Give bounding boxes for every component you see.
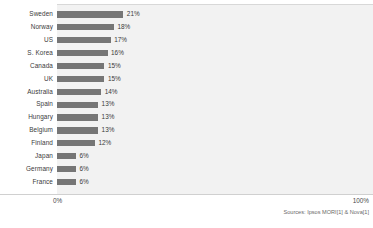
category-label: US — [0, 37, 57, 43]
bar — [57, 11, 123, 17]
bar-row: US17% — [0, 34, 373, 47]
value-label: 13% — [98, 114, 114, 120]
bar-rows: Sweden21%Norway18%US17%S. Korea16%Canada… — [0, 8, 373, 194]
bar-track: 17% — [57, 34, 373, 47]
bar-track: 16% — [57, 47, 373, 60]
bar-row: Germany6% — [0, 163, 373, 176]
value-label: 16% — [108, 50, 124, 56]
x-axis-tick-min: 0% — [53, 197, 62, 204]
bar-track: 13% — [57, 98, 373, 111]
value-label: 6% — [76, 179, 89, 185]
bar-track: 13% — [57, 111, 373, 124]
value-label: 12% — [95, 140, 111, 146]
category-label: Belgium — [0, 127, 57, 133]
category-label: S. Korea — [0, 50, 57, 56]
category-label: Germany — [0, 166, 57, 172]
bar-chart: Sweden21%Norway18%US17%S. Korea16%Canada… — [0, 0, 373, 228]
bar — [57, 102, 98, 108]
bar — [57, 127, 98, 133]
value-label: 13% — [98, 101, 114, 107]
bar-track: 15% — [57, 60, 373, 73]
bar-track: 6% — [57, 176, 373, 189]
x-axis-line — [0, 194, 373, 195]
bar-track: 14% — [57, 85, 373, 98]
bar-row: Japan6% — [0, 150, 373, 163]
category-label: Hungary — [0, 114, 57, 120]
source-note: Sources: Ipsos MORI[1] & Nova[1] — [284, 209, 370, 215]
category-label: Australia — [0, 89, 57, 95]
bar — [57, 89, 101, 95]
value-label: 17% — [111, 37, 127, 43]
category-label: Canada — [0, 63, 57, 69]
category-label: UK — [0, 76, 57, 82]
value-label: 14% — [101, 89, 117, 95]
bar — [57, 114, 98, 120]
category-label: Finland — [0, 140, 57, 146]
category-label: Japan — [0, 153, 57, 159]
bar — [57, 166, 76, 172]
bar — [57, 76, 104, 82]
bar-track: 15% — [57, 72, 373, 85]
bar-row: Belgium13% — [0, 124, 373, 137]
bar — [57, 24, 114, 30]
bar — [57, 179, 76, 185]
value-label: 21% — [123, 11, 139, 17]
bar-row: Sweden21% — [0, 8, 373, 21]
bar-track: 6% — [57, 163, 373, 176]
value-label: 15% — [104, 76, 120, 82]
bar — [57, 37, 111, 43]
bar — [57, 50, 108, 56]
bar-row: Finland12% — [0, 137, 373, 150]
category-label: Spain — [0, 101, 57, 107]
value-label: 6% — [76, 166, 89, 172]
bar-row: Norway18% — [0, 21, 373, 34]
bar — [57, 140, 95, 146]
bar-track: 12% — [57, 137, 373, 150]
value-label: 15% — [104, 63, 120, 69]
x-axis-tick-max: 100% — [353, 197, 369, 204]
bar-row: Australia14% — [0, 85, 373, 98]
category-label: France — [0, 179, 57, 185]
bar — [57, 153, 76, 159]
bar-row: Hungary13% — [0, 111, 373, 124]
category-label: Sweden — [0, 11, 57, 17]
value-label: 18% — [114, 24, 130, 30]
bar-row: Canada15% — [0, 60, 373, 73]
bar-track: 6% — [57, 150, 373, 163]
bar-row: Spain13% — [0, 98, 373, 111]
bar-row: France6% — [0, 176, 373, 189]
bar — [57, 63, 104, 69]
bar-track: 13% — [57, 124, 373, 137]
value-label: 6% — [76, 153, 89, 159]
category-label: Norway — [0, 24, 57, 30]
bar-row: UK15% — [0, 72, 373, 85]
bar-row: S. Korea16% — [0, 47, 373, 60]
bar-track: 18% — [57, 21, 373, 34]
value-label: 13% — [98, 127, 114, 133]
bar-track: 21% — [57, 8, 373, 21]
